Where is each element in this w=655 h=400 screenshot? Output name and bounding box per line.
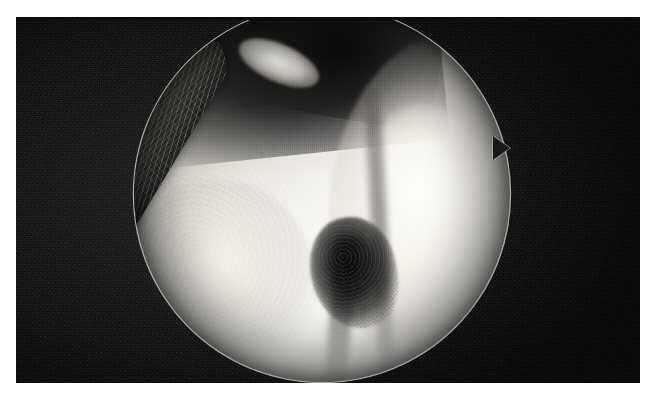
granular-left-tissue-texture [134, 171, 330, 382]
photo-panel [16, 17, 640, 383]
endoscope-field-of-view [134, 17, 510, 382]
page-root [0, 0, 655, 400]
rim-notch [493, 136, 510, 160]
field-top-clip-edge [16, 17, 640, 20]
